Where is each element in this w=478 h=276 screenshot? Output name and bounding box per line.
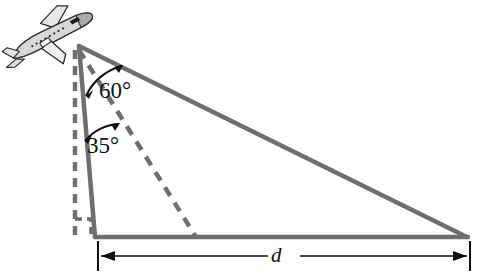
angle-label-60: 60° (99, 78, 131, 104)
diagram-canvas (0, 0, 478, 276)
geometry-figure: 60° 35° d (0, 0, 478, 276)
airplane-icon (0, 0, 105, 84)
distance-label-d: d (271, 243, 282, 268)
angle-label-35: 35° (87, 133, 119, 159)
dimension-line-d (98, 241, 470, 271)
right-angle-marker-icon (75, 219, 91, 237)
